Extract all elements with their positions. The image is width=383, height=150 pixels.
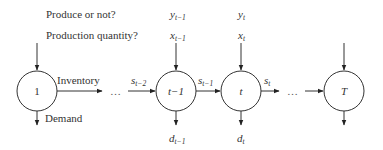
production-planning-diagram: Produce or not? Production quantity? 1 D… <box>0 0 383 150</box>
produce-or-not-label: Produce or not? <box>46 8 116 20</box>
node-t-minus-1: yt−1 xt−1 t−1 dt−1 <box>156 8 196 146</box>
y-t-label: yt <box>237 8 246 22</box>
x-t-minus-1-label: xt−1 <box>169 29 186 43</box>
s-t-label: st <box>264 74 271 88</box>
node-1-label: 1 <box>34 85 40 97</box>
d-t-label: dt <box>237 132 246 146</box>
x-t-label: xt <box>237 29 246 43</box>
node-t: yt xt t dt <box>221 8 261 146</box>
s-t-minus-1-label: st−1 <box>198 74 213 88</box>
node-T-label: T <box>341 85 348 97</box>
ellipsis-1: … <box>110 85 121 97</box>
ellipsis-2: … <box>287 85 298 97</box>
production-quantity-label: Production quantity? <box>46 29 138 41</box>
node-t-minus-1-label: t−1 <box>168 85 184 97</box>
demand-label: Demand <box>45 112 83 124</box>
d-t-minus-1-label: dt−1 <box>169 132 185 146</box>
s-t-minus-2-label: st−2 <box>131 74 146 88</box>
inventory-label: Inventory <box>57 74 100 86</box>
node-T: T <box>324 43 364 125</box>
y-t-minus-1-label: yt−1 <box>169 8 186 22</box>
